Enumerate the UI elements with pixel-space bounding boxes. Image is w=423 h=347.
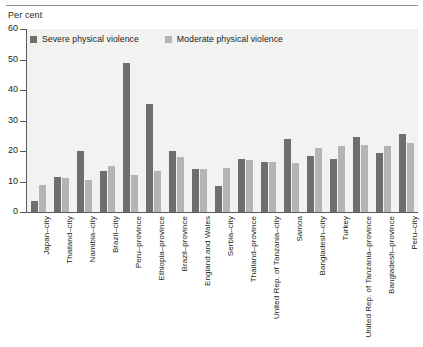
y-axis-tick-label-text: 40 <box>4 85 18 94</box>
x-axis-label: Thailand–city <box>65 168 74 216</box>
x-axis-label: Brazil–province <box>180 161 189 216</box>
bar-severe <box>215 186 223 212</box>
x-axis-label: England and Wales <box>203 146 212 216</box>
y-axis-tick-label-text: 10 <box>4 177 18 186</box>
x-axis-label: Peru–province <box>134 164 143 216</box>
y-axis-tick-label-text: 30 <box>4 116 18 125</box>
bar-group <box>326 29 349 212</box>
x-axis-label-text: Brazil–city <box>111 216 120 253</box>
y-axis-tick-label: 20 <box>2 146 18 155</box>
x-axis-label: Peru–city <box>410 182 419 216</box>
y-axis-tick-label-text: 60 <box>4 24 18 33</box>
x-axis-label: Thailand–province <box>249 150 258 216</box>
bar-severe <box>31 201 39 212</box>
bar-severe <box>399 134 407 212</box>
bar-severe <box>100 171 108 212</box>
bar-group <box>280 29 303 212</box>
bar-severe <box>169 151 177 212</box>
x-axis-label-text: United Rep. of Tanzania–province <box>364 216 373 338</box>
y-axis-tick-mark <box>20 121 26 122</box>
bar-severe <box>192 169 200 212</box>
x-axis-label: United Rep. of Tanzania–province <box>364 94 373 216</box>
y-axis-tick-label: 40 <box>2 85 18 94</box>
y-axis-tick-label: 30 <box>2 116 18 125</box>
bar-severe <box>123 63 131 212</box>
x-axis-label-text: Bangladesh–province <box>387 216 396 294</box>
y-axis-tick-mark <box>20 182 26 183</box>
y-axis-tick-mark <box>20 151 26 152</box>
x-axis-label: Brazil–city <box>111 179 120 216</box>
x-axis-label: Ethiopia–province <box>157 152 166 216</box>
x-axis-label-text: Ethiopia–province <box>157 216 166 280</box>
x-axis-label-text: Thailand–province <box>249 216 258 282</box>
x-axis-label-text: United Rep. of Tanzania–city <box>272 216 281 319</box>
top-divider-rule <box>6 5 418 6</box>
x-axis-category-labels: Japan–cityThailand–cityNamibia–cityBrazi… <box>27 214 418 344</box>
bar-severe <box>307 156 315 212</box>
bar-severe <box>353 137 361 212</box>
x-axis-label: Samoa <box>295 190 304 216</box>
x-axis-label-text: Bangladesh–city <box>318 216 327 275</box>
y-axis-tick-label: 10 <box>2 177 18 186</box>
x-axis-label-text: Peru–province <box>134 216 143 268</box>
x-axis-label-text: Brazil–province <box>180 216 189 271</box>
bar-severe <box>238 159 246 212</box>
x-axis-label-text: Turkey <box>341 216 350 240</box>
y-axis-tick-label-text: 0 <box>4 207 18 216</box>
x-axis-line <box>20 212 418 213</box>
x-axis-label-text: England and Wales <box>203 216 212 286</box>
x-axis-label: Turkey <box>341 192 350 216</box>
y-axis-tick-label-text: 50 <box>4 55 18 64</box>
x-axis-label: Bangladesh–city <box>318 157 327 216</box>
x-axis-label-text: Thailand–city <box>65 216 74 264</box>
y-axis-tick-mark <box>20 29 26 30</box>
chart-figure: Per cent 0102030405060 Severe physical v… <box>0 0 423 347</box>
y-axis-tick-label: 0 <box>2 207 18 216</box>
bar-severe <box>376 153 384 212</box>
y-axis-tick-label-text: 20 <box>4 146 18 155</box>
x-axis-label-text: Serbia–city <box>226 216 235 256</box>
y-axis-tick-mark <box>20 90 26 91</box>
y-axis-unit-label: Per cent <box>8 10 42 20</box>
bar-severe <box>330 159 338 212</box>
x-axis-label-text: Namibia–city <box>88 216 97 262</box>
y-axis-tick-label: 50 <box>2 55 18 64</box>
x-axis-label: Bangladesh–province <box>387 138 396 216</box>
x-axis-label: Japan–city <box>42 177 51 216</box>
bar-series-layer <box>27 29 418 212</box>
x-axis-label-text: Peru–city <box>410 216 419 250</box>
bar-severe <box>284 139 292 212</box>
x-axis-label: Serbia–city <box>226 176 235 216</box>
bar-severe <box>77 151 85 212</box>
bar-severe <box>54 177 62 212</box>
bar-severe <box>146 104 154 212</box>
x-axis-label: Namibia–city <box>88 170 97 216</box>
y-axis-tick-mark <box>20 212 26 213</box>
bar-severe <box>261 162 269 212</box>
y-axis-tick-mark <box>20 60 26 61</box>
y-axis-tick-label: 60 <box>2 24 18 33</box>
x-axis-label-text: Samoa <box>295 216 304 242</box>
x-axis-label-text: Japan–city <box>42 216 51 255</box>
x-axis-label: United Rep. of Tanzania–city <box>272 113 281 216</box>
